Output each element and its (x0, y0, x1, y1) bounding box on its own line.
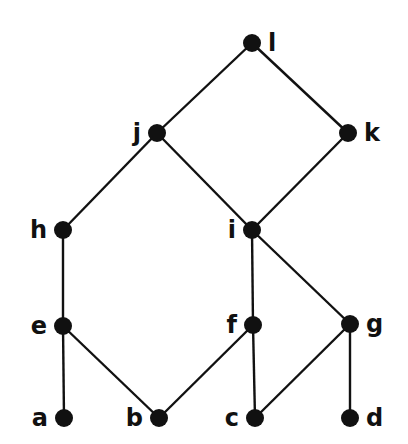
node-label-g: g (366, 310, 383, 338)
nodes (54, 34, 359, 427)
edge-g-c (255, 324, 350, 418)
edge-l-j (157, 43, 252, 133)
edges (63, 43, 350, 418)
node-label-e: e (31, 312, 47, 340)
node-label-d: d (366, 404, 383, 432)
node-label-l: l (268, 29, 276, 57)
node-e (54, 317, 72, 335)
node-b (150, 409, 168, 427)
node-label-h: h (30, 216, 47, 244)
node-l (243, 34, 261, 52)
edge-k-i (252, 133, 348, 230)
node-i (243, 221, 261, 239)
node-label-j: j (132, 119, 141, 147)
edge-i-f (252, 230, 253, 325)
node-d (341, 409, 359, 427)
node-j (148, 124, 166, 142)
node-label-f: f (227, 311, 238, 339)
node-c (246, 409, 264, 427)
node-h (54, 221, 72, 239)
hasse-diagram: ljkhiefgabcd (0, 0, 408, 444)
edge-j-i (157, 133, 252, 230)
edge-e-a (63, 326, 64, 418)
node-a (55, 409, 73, 427)
node-label-a: a (32, 404, 48, 432)
edge-f-c (253, 325, 255, 418)
edge-j-h (63, 133, 157, 230)
node-label-k: k (364, 119, 381, 147)
node-f (244, 316, 262, 334)
edge-e-b (63, 326, 159, 418)
node-k (339, 124, 357, 142)
node-label-i: i (228, 216, 236, 244)
node-g (341, 315, 359, 333)
node-label-b: b (126, 404, 143, 432)
edge-l-k (252, 43, 348, 133)
edge-i-g (252, 230, 350, 324)
node-label-c: c (225, 404, 239, 432)
